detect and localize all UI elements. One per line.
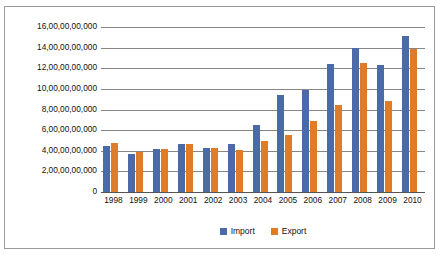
y-axis-tick-label: 12,00,00,00,000 [1,63,97,72]
bar-import-2009[interactable] [377,65,384,192]
bar-group [226,27,251,192]
y-axis-tick-label: 10,00,00,00,000 [1,84,97,93]
legend-label: Export [282,226,307,236]
bar-group [275,27,300,192]
bar-export-2002[interactable] [211,148,218,192]
bar-import-2002[interactable] [203,148,210,192]
bar-export-2001[interactable] [186,144,193,192]
bar-group [325,27,350,192]
chart-container: 02,00,00,00,0004,00,00,00,0006,00,00,00,… [0,0,441,259]
x-axis-tick-label: 2010 [400,195,425,205]
bar-import-2005[interactable] [277,95,284,192]
chart-legend: ImportExport [101,224,425,238]
y-axis-tick-label: 0 [1,187,97,196]
legend-swatch-icon [220,228,227,235]
bar-import-2007[interactable] [327,64,334,192]
bar-export-2005[interactable] [285,135,292,192]
x-axis-tick-label: 1998 [101,195,126,205]
bar-import-2008[interactable] [352,48,359,192]
y-axis-tick-label: 2,00,00,00,000 [1,166,97,175]
x-axis-tick-label: 2009 [375,195,400,205]
bar-group [375,27,400,192]
legend-label: Import [231,226,255,236]
y-axis-labels: 02,00,00,00,0004,00,00,00,0006,00,00,00,… [0,0,97,259]
x-axis-tick-label: 2004 [251,195,276,205]
bar-group [400,27,425,192]
x-axis-labels: 1998199920002001200220032004200520062007… [101,195,425,209]
y-axis-tick-label: 14,00,00,00,000 [1,43,97,52]
bar-import-2000[interactable] [153,149,160,192]
x-axis-tick-label: 2005 [275,195,300,205]
bar-import-1999[interactable] [128,154,135,192]
legend-item-import[interactable]: Import [220,226,255,236]
bar-group [350,27,375,192]
bar-export-2009[interactable] [385,101,392,192]
bar-group [126,27,151,192]
bar-export-1999[interactable] [136,152,143,192]
bar-export-2003[interactable] [236,150,243,192]
x-axis-tick-label: 2001 [176,195,201,205]
bar-import-1998[interactable] [103,146,110,192]
bar-export-2006[interactable] [310,121,317,192]
bar-import-2003[interactable] [228,144,235,192]
x-axis-tick-label: 2000 [151,195,176,205]
y-axis-tick-label: 8,00,00,00,000 [1,105,97,114]
x-axis-line [101,192,425,193]
bars-layer [101,27,425,192]
bar-group [300,27,325,192]
x-axis-tick-label: 2008 [350,195,375,205]
legend-item-export[interactable]: Export [271,226,307,236]
bar-export-2008[interactable] [360,63,367,192]
bar-import-2006[interactable] [302,90,309,192]
x-axis-tick-label: 2006 [300,195,325,205]
x-axis-tick-label: 2002 [201,195,226,205]
bar-group [151,27,176,192]
bar-import-2001[interactable] [178,144,185,192]
x-axis-tick-label: 2003 [226,195,251,205]
bar-group [201,27,226,192]
bar-group [101,27,126,192]
y-axis-tick-label: 4,00,00,00,000 [1,146,97,155]
x-axis-tick-label: 1999 [126,195,151,205]
bar-group [176,27,201,192]
bar-import-2010[interactable] [402,36,409,192]
bar-export-2000[interactable] [161,149,168,192]
y-axis-tick-label: 16,00,00,00,000 [1,22,97,31]
bar-export-1998[interactable] [111,143,118,193]
bar-export-2004[interactable] [261,141,268,192]
x-axis-tick-label: 2007 [325,195,350,205]
bar-export-2007[interactable] [335,105,342,192]
bar-export-2010[interactable] [410,49,417,192]
bar-import-2004[interactable] [253,125,260,192]
bar-group [251,27,276,192]
legend-swatch-icon [271,228,278,235]
y-axis-tick-label: 6,00,00,00,000 [1,125,97,134]
